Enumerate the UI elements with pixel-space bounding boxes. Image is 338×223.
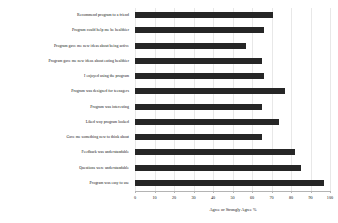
x-axis-title: Agree or Strongly Agree % xyxy=(135,207,331,212)
category-label: Questions were understandable xyxy=(0,161,133,176)
category-label: Program was designed for teenagers xyxy=(0,84,133,99)
plot-area xyxy=(135,8,330,191)
bar xyxy=(135,104,262,110)
bar xyxy=(135,88,285,94)
bar-row xyxy=(135,39,330,54)
x-axis-tick xyxy=(233,191,234,193)
x-axis-tick xyxy=(311,191,312,193)
x-axis-tick-label: 30 xyxy=(186,195,202,200)
x-axis-tick-label: 10 xyxy=(147,195,163,200)
bar-row xyxy=(135,54,330,69)
x-axis-tick xyxy=(291,191,292,193)
category-label: Gave me something new to think about xyxy=(0,130,133,145)
category-label: Feedback was understandable xyxy=(0,145,133,160)
x-axis-tick xyxy=(330,191,331,193)
category-label: Program could help me be healthier xyxy=(0,23,133,38)
bar xyxy=(135,165,301,171)
x-axis-tick-label: 70 xyxy=(264,195,280,200)
bar xyxy=(135,134,262,140)
bar xyxy=(135,27,264,33)
x-axis-tick xyxy=(174,191,175,193)
bar-chart: Recommend program to a friend Program co… xyxy=(0,0,338,223)
bar-row xyxy=(135,23,330,38)
bar-row xyxy=(135,176,330,191)
x-axis-tick xyxy=(155,191,156,193)
bar-row xyxy=(135,84,330,99)
x-axis-tick xyxy=(194,191,195,193)
x-axis-tick-label: 0 xyxy=(127,195,143,200)
category-axis-labels: Recommend program to a friend Program co… xyxy=(0,8,133,191)
category-label: Program gave me new ideas about eating h… xyxy=(0,54,133,69)
category-label: Program was easy to use xyxy=(0,176,133,191)
bar xyxy=(135,149,295,155)
category-label: Liked way program looked xyxy=(0,115,133,130)
x-axis-tick-label: 60 xyxy=(244,195,260,200)
category-label: Program was interesting xyxy=(0,100,133,115)
bar xyxy=(135,119,279,125)
bar xyxy=(135,73,264,79)
category-label: I enjoyed using the program xyxy=(0,69,133,84)
bar-row xyxy=(135,8,330,23)
x-axis-tick-label: 100 xyxy=(322,195,338,200)
x-axis-tick-label: 20 xyxy=(166,195,182,200)
x-axis-tick xyxy=(252,191,253,193)
bar xyxy=(135,12,273,18)
bar xyxy=(135,180,324,186)
bar-row xyxy=(135,145,330,160)
bar-series xyxy=(135,8,330,191)
gridline xyxy=(330,8,331,191)
x-axis-tick-label: 80 xyxy=(283,195,299,200)
bar-row xyxy=(135,115,330,130)
x-axis-tick-label: 40 xyxy=(205,195,221,200)
bar-row xyxy=(135,69,330,84)
x-axis-tick-label: 90 xyxy=(303,195,319,200)
x-axis-tick xyxy=(272,191,273,193)
category-label: Program gave me new ideas about being ac… xyxy=(0,39,133,54)
bar-row xyxy=(135,130,330,145)
category-label: Recommend program to a friend xyxy=(0,8,133,23)
bar xyxy=(135,43,246,49)
x-axis-tick xyxy=(213,191,214,193)
bar-row xyxy=(135,100,330,115)
x-axis-tick-label: 50 xyxy=(225,195,241,200)
bar-row xyxy=(135,161,330,176)
x-axis-tick xyxy=(135,191,136,193)
bar xyxy=(135,58,262,64)
